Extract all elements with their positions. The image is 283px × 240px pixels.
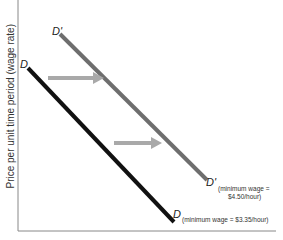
shift-arrow-icon	[48, 72, 104, 84]
d-prime-note-line1: (minimum wage =	[218, 185, 269, 193]
d-prime-top-label: D'	[52, 25, 62, 37]
demand-shift-chart: Price per unit time period (wage rate) D…	[0, 0, 283, 240]
chart-canvas	[0, 0, 283, 240]
demand-curve-d-prime	[60, 34, 207, 180]
d-bottom-label: D	[173, 208, 181, 220]
d-note: (minimum wage = $3.35/hour)	[182, 216, 269, 224]
d-top-label: D	[20, 58, 28, 70]
shift-arrow-icon	[114, 137, 162, 149]
d-prime-bottom-label: D'	[206, 176, 216, 188]
d-prime-note-line2: $4.50/hour)	[228, 193, 261, 201]
y-axis-label: Price per unit time period (wage rate)	[5, 49, 16, 189]
